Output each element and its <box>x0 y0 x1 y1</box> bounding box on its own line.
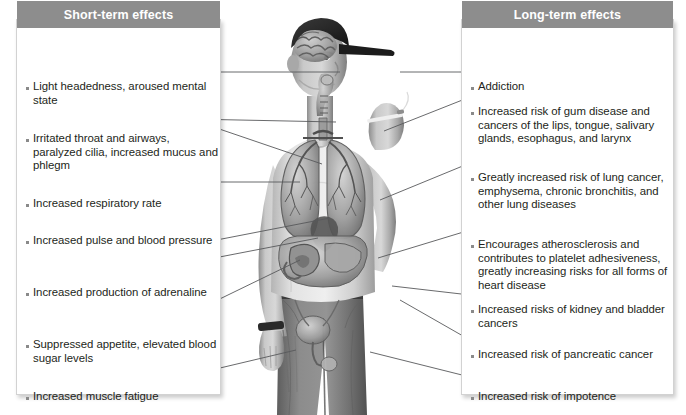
bullet-icon <box>471 112 474 115</box>
abdominal-organs-overlay <box>279 236 368 287</box>
bullet-icon <box>26 345 29 348</box>
list-item[interactable]: Increased pulse and blood pressure <box>26 234 218 248</box>
list-item[interactable]: Increased risks of kidney and bladder ca… <box>471 303 673 330</box>
smoking-effects-diagram: Short-term effects Light headedness, aro… <box>0 0 686 415</box>
smoker-figure-illustration <box>243 0 453 415</box>
list-item[interactable]: Increased risk of pancreatic cancer <box>471 348 673 362</box>
list-item[interactable]: Increased risk of gum disease and cancer… <box>471 105 673 146</box>
bullet-icon <box>471 310 474 313</box>
list-item[interactable]: Increased respiratory rate <box>26 197 218 211</box>
bullet-icon <box>471 178 474 181</box>
list-item[interactable]: Encourages atherosclerosis and contribut… <box>471 238 673 292</box>
list-item[interactable]: Irritated throat and airways, paralyzed … <box>26 132 218 173</box>
panel-long-term-body: Addiction Increased risk of gum disease … <box>462 28 673 396</box>
panel-short-term-effects: Short-term effects Light headedness, aro… <box>16 19 221 395</box>
panel-short-term-body: Light headedness, aroused mental state I… <box>17 28 220 396</box>
panel-short-term-header: Short-term effects <box>17 1 220 28</box>
bullet-icon <box>26 241 29 244</box>
bullet-icon <box>26 397 29 400</box>
panel-long-term-effects: Long-term effects Addiction Increased ri… <box>461 19 674 395</box>
bullet-icon <box>26 204 29 207</box>
list-item[interactable]: Greatly increased risk of lung cancer, e… <box>471 171 673 212</box>
list-item[interactable]: Increased muscle fatigue <box>26 390 218 404</box>
list-item[interactable]: Increased production of adrenaline <box>26 286 218 300</box>
list-item[interactable]: Light headedness, aroused mental state <box>26 80 218 107</box>
bullet-icon <box>471 397 474 400</box>
list-item[interactable]: Increased risk of impotence <box>471 390 673 404</box>
bullet-icon <box>26 139 29 142</box>
bullet-icon <box>26 87 29 90</box>
list-item[interactable]: Suppressed appetite, elevated blood suga… <box>26 338 218 365</box>
jeans <box>277 296 367 415</box>
list-item[interactable]: Addiction <box>471 80 673 94</box>
bullet-icon <box>471 245 474 248</box>
bullet-icon <box>471 355 474 358</box>
panel-long-term-header: Long-term effects <box>462 1 673 28</box>
bullet-icon <box>26 293 29 296</box>
bullet-icon <box>471 87 474 90</box>
